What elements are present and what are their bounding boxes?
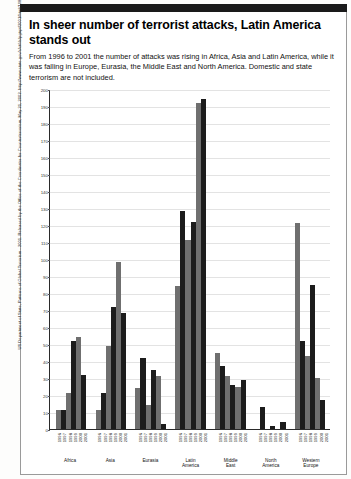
y-axis-tick-label: 180 — [41, 122, 48, 127]
x-axis-year-label: 2001 — [201, 432, 206, 456]
y-axis-tick-label: 140 — [41, 190, 48, 195]
x-axis-region-label: Eurasia — [142, 458, 158, 463]
y-axis-tick — [48, 158, 50, 159]
y-axis-tick — [48, 107, 50, 108]
x-axis: 199619971998199920002001Africa1996199719… — [50, 432, 331, 478]
y-axis-tick-label: 200 — [41, 88, 48, 93]
bar — [241, 380, 246, 429]
bar-group — [131, 90, 171, 429]
bar-groups — [51, 90, 330, 429]
bar — [270, 426, 275, 429]
y-axis-tick — [48, 192, 50, 193]
x-axis-group: 199619971998199920002001Western Europe — [291, 432, 331, 478]
y-axis-tick-label: 120 — [41, 224, 48, 229]
source-citation: US Department of State, Patterns of Glob… — [17, 100, 22, 350]
y-axis-tick — [48, 362, 50, 363]
y-axis-tick-label: 110 — [41, 241, 48, 246]
y-axis-tick — [48, 345, 50, 346]
top-rule — [20, 4, 347, 12]
x-axis-region-label: Asia — [106, 458, 115, 463]
x-axis-region-label: Latin America — [182, 458, 199, 469]
infographic-page: US Department of State, Patterns of Glob… — [0, 0, 351, 479]
y-axis-tick-label: 100 — [41, 258, 48, 263]
y-axis-tick — [48, 396, 50, 397]
x-axis-region-label: Middle East — [224, 458, 238, 469]
bar — [280, 422, 285, 429]
bar-group — [250, 90, 290, 429]
bar — [156, 376, 161, 429]
x-axis-group: 199619971998199920002001Latin America — [170, 432, 210, 478]
y-axis-tick — [48, 141, 50, 142]
bar-group — [210, 90, 250, 429]
x-axis-group: 199619971998199920002001Asia — [90, 432, 130, 478]
x-axis-region-label: North America — [262, 458, 279, 469]
y-axis-tick — [48, 311, 50, 312]
plot-area: 0102030405060708090100110120130140150160… — [49, 90, 330, 430]
x-axis-group: 199619971998199920002001Middle East — [211, 432, 251, 478]
y-axis-tick-label: 170 — [41, 139, 48, 144]
bar — [81, 375, 86, 429]
y-axis-tick-label: 130 — [41, 207, 48, 212]
bar — [121, 313, 126, 429]
y-axis-tick — [48, 413, 50, 414]
x-axis-year-label: 2001 — [281, 432, 286, 456]
y-axis-tick — [48, 379, 50, 380]
bar-group — [171, 90, 211, 429]
y-axis-tick — [48, 260, 50, 261]
y-axis-tick — [48, 90, 50, 91]
y-axis-tick-label: 190 — [41, 105, 48, 110]
page-subtitle: From 1996 to 2001 the number of attacks … — [29, 52, 337, 83]
y-axis-tick — [48, 243, 50, 244]
bar-group — [51, 90, 91, 429]
y-axis-tick-label: 160 — [41, 156, 48, 161]
x-axis-region-label: Africa — [64, 458, 76, 463]
y-axis-tick — [48, 124, 50, 125]
x-axis-year-label: 2001 — [241, 432, 246, 456]
x-axis-group: 199619971998199920002001North America — [251, 432, 291, 478]
y-axis-tick — [48, 226, 50, 227]
y-axis-tick — [48, 175, 50, 176]
x-axis-year-label: 2001 — [321, 432, 326, 456]
bar — [201, 99, 206, 429]
x-axis-year-label: 2001 — [161, 432, 166, 456]
y-axis-tick — [48, 209, 50, 210]
bar — [161, 424, 166, 429]
y-axis-tick — [48, 294, 50, 295]
y-axis-tick-label: 150 — [41, 173, 48, 178]
bar — [320, 400, 325, 429]
x-axis-group: 199619971998199920002001Eurasia — [130, 432, 170, 478]
page-title: In sheer number of terrorist attacks, La… — [29, 18, 334, 47]
y-axis-tick — [48, 277, 50, 278]
y-axis-tick — [48, 328, 50, 329]
x-axis-region-label: Western Europe — [302, 458, 319, 469]
bar — [260, 407, 265, 429]
bar-group — [91, 90, 131, 429]
bar-group — [290, 90, 330, 429]
x-axis-year-label: 2001 — [120, 432, 125, 456]
y-axis-tick — [48, 430, 50, 431]
x-axis-year-label: 2001 — [80, 432, 85, 456]
x-axis-group: 199619971998199920002001Africa — [50, 432, 90, 478]
bar-chart: 0102030405060708090100110120130140150160… — [28, 86, 334, 478]
